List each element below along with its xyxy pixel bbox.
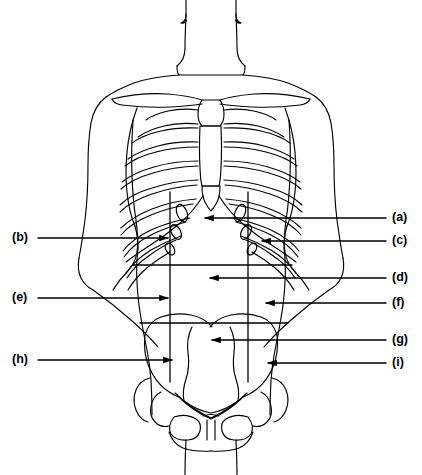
rib-right-2 [224,128,290,143]
label-h[interactable]: (h) [12,352,28,366]
femur-left-head [134,378,150,422]
arm-left-elbow [78,258,93,290]
sacrum-left-border [183,327,192,401]
iliac-crest-left [145,314,212,335]
rib-left-3 [125,147,198,166]
rib-left-1 [146,109,198,120]
label-d[interactable]: (d) [392,270,408,284]
neck-left-outline [177,14,186,66]
clavicles-and-sternum [112,94,310,211]
clavicle-right-lower [220,99,310,107]
sternum-body [200,126,222,186]
pubic-symphysis [207,420,215,440]
label-text-group: (b)(e)(h)(a)(c)(d)(f)(g)(i) [12,210,408,369]
rib-right-3 [224,147,297,166]
obturator-foramen-right [222,415,253,440]
arm-right-outer [316,97,343,258]
ischium-right [211,432,253,451]
clavicle-right [220,94,310,100]
leg-right-inner [236,440,237,475]
acetabulum-right [253,392,272,427]
label-e[interactable]: (e) [12,290,27,304]
rib-right-4b [224,180,302,205]
label-g[interactable]: (g) [392,332,408,346]
neck-right-outline [236,14,245,66]
sacrum-right-border [230,327,239,401]
clavicle-left-lower [112,99,202,107]
leader-lines-group [38,218,386,363]
arm-right-forearm [264,290,329,347]
abdominal-region-grid [133,192,292,382]
rib-left-2 [132,128,198,143]
label-c[interactable]: (c) [392,233,407,247]
diagram-canvas: (b)(e)(h)(a)(c)(d)(f)(g)(i) [0,0,422,475]
rib-right-1 [224,109,276,120]
label-f[interactable]: (f) [392,295,405,309]
acetabulum-left [151,392,170,427]
rib-left-8b [128,252,170,290]
label-b[interactable]: (b) [12,230,28,244]
clavicle-left [112,94,202,100]
xiphoid-process [202,186,220,211]
anatomical-figure: (b)(e)(h)(a)(c)(d)(f)(g)(i) [0,0,422,475]
rib-left-4b [120,180,198,205]
hip-right-contour [270,248,285,415]
label-a[interactable]: (a) [392,210,407,224]
femur-right-head [272,378,288,422]
neck-base-outline [177,66,245,75]
iliac-crest-right [210,314,277,335]
rib-right-8b [252,252,294,290]
leg-left-inner [185,440,186,475]
rib-tip-right-2 [238,223,253,241]
arm-right-elbow [329,258,344,290]
arm-left-outer [79,97,106,258]
obturator-foramen-left [170,415,201,440]
ischium-left [169,432,211,451]
hip-left-contour [137,248,152,415]
label-i[interactable]: (i) [392,355,404,369]
pelvis [134,314,288,451]
pubic-symphysis-top [203,415,219,417]
